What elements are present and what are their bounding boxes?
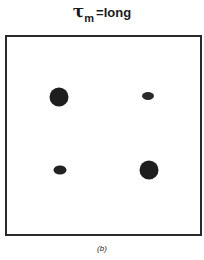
dot-top-left xyxy=(50,88,69,107)
figure-title: τm=long xyxy=(0,3,204,26)
dot-bottom-left xyxy=(54,166,67,175)
figure-caption: (b) xyxy=(0,244,204,254)
title-suffix: =long xyxy=(96,5,131,20)
dot-top-right xyxy=(142,92,154,100)
dot-bottom-right xyxy=(140,161,159,180)
tau-subscript: m xyxy=(84,12,94,24)
tau-symbol: τ xyxy=(73,1,84,21)
figure-panel xyxy=(5,35,202,236)
